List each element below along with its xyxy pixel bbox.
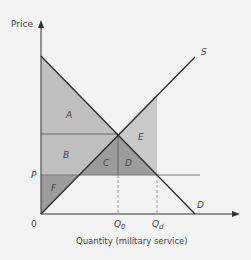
region-e-label: E <box>138 132 144 142</box>
x-axis-label: Quantity (military service) <box>76 236 188 246</box>
y-axis-arrow-icon <box>38 20 44 28</box>
x-axis-arrow-icon <box>232 211 240 217</box>
supply-demand-diagram: Price 0 P S D A B C D E F Q0 Qd Quantity… <box>0 0 251 260</box>
qd-label: Qd <box>152 219 164 231</box>
region-b-label: B <box>63 150 69 160</box>
supply-label: S <box>201 47 207 57</box>
price-p-label: P <box>31 170 37 180</box>
origin-label: 0 <box>31 219 37 229</box>
demand-label: D <box>197 200 204 210</box>
region-a-label: A <box>65 110 72 120</box>
q0-label: Q0 <box>114 219 126 231</box>
region-d-label: D <box>125 158 132 168</box>
region-f-label: F <box>51 183 57 193</box>
region-c-label: C <box>103 158 110 168</box>
y-axis-label: Price <box>11 19 33 29</box>
